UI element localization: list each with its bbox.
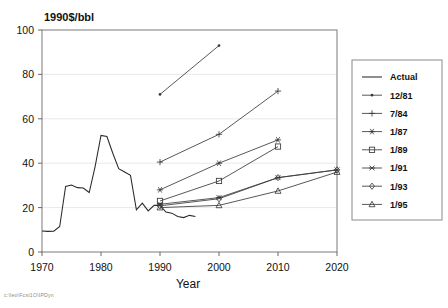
legend-label: Actual [390, 72, 418, 82]
x-tick-label: 2020 [325, 261, 349, 273]
y-tick-label: 100 [16, 24, 34, 36]
y-tick-label: 80 [22, 68, 34, 80]
x-tick-label: 1990 [148, 261, 172, 273]
y-tick-label: 20 [22, 202, 34, 214]
data-point-dot [371, 94, 374, 97]
legend-label: 1/95 [390, 200, 408, 210]
y-tick-label: 40 [22, 157, 34, 169]
x-tick-label: 2000 [207, 261, 231, 273]
y-tick-label: 0 [28, 246, 34, 258]
data-point-dot [218, 44, 221, 47]
legend-label: 12/81 [390, 91, 413, 101]
chart-legend: Actual12/817/841/871/891/911/931/95 [352, 60, 442, 220]
oil-price-forecast-chart: 020406080100 197019801990200020102020 19… [0, 0, 448, 308]
x-tick-label: 1980 [89, 261, 113, 273]
legend-box [352, 60, 442, 220]
data-point-dot [159, 93, 162, 96]
legend-label: 1/93 [390, 182, 408, 192]
y-axis-unit-title: 1990$/bbl [44, 11, 94, 23]
legend-label: 7/84 [390, 109, 408, 119]
legend-label: 1/87 [390, 127, 408, 137]
y-tick-label: 60 [22, 113, 34, 125]
legend-label: 1/89 [390, 145, 408, 155]
x-axis-title: Year [176, 277, 200, 291]
legend-label: 1/91 [390, 163, 408, 173]
x-tick-label: 2010 [266, 261, 290, 273]
x-tick-label: 1970 [30, 261, 54, 273]
source-path-footer: c:\leo\Fcst1O\IPDyn [4, 292, 54, 298]
